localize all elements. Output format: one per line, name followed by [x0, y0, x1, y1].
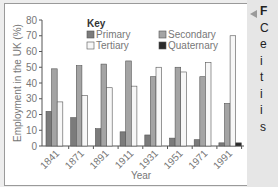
legend-label-primary: Primary	[96, 29, 130, 40]
bar-primary	[170, 138, 176, 146]
bar-primary	[95, 129, 101, 146]
side-text-line: s	[260, 120, 266, 134]
bar-tertiary	[181, 72, 187, 146]
y-tick-label: 60	[26, 46, 38, 57]
bar-chart: 01020304050607080Employment in the UK (%…	[5, 4, 247, 185]
legend-label-secondary: Secondary	[168, 29, 216, 40]
bar-primary	[71, 118, 77, 146]
bar-tertiary	[57, 102, 63, 146]
bar-tertiary	[131, 86, 137, 146]
bar-primary	[46, 111, 52, 146]
bar-primary	[145, 135, 151, 146]
legend-label-tertiary: Tertiary	[96, 40, 129, 51]
y-tick-label: 10	[26, 125, 38, 136]
bar-secondary	[76, 66, 82, 146]
x-tick-label: 1911	[113, 147, 136, 170]
legend-swatch-secondary	[159, 31, 166, 38]
y-tick-label: 30	[26, 93, 38, 104]
side-text-line: C	[260, 21, 269, 35]
side-text-line: e	[260, 37, 267, 51]
y-axis-label: Employment in the UK (%)	[12, 24, 23, 142]
legend-title: Key	[87, 18, 106, 29]
side-text-line: t	[260, 70, 263, 84]
bar-secondary	[52, 69, 58, 146]
x-tick-label: 1931	[137, 147, 161, 171]
bar-tertiary	[230, 36, 236, 146]
x-tick-label: 1991	[211, 147, 235, 171]
pointer-arrow-icon	[250, 10, 257, 18]
bar-secondary	[200, 77, 206, 146]
legend-swatch-tertiary	[87, 42, 94, 49]
y-tick-label: 70	[26, 30, 38, 41]
bar-secondary	[126, 61, 132, 146]
x-tick-label: 1871	[63, 147, 87, 171]
side-heading: F	[260, 4, 267, 18]
x-tick-label: 1891	[87, 147, 111, 171]
side-text-line: i	[260, 103, 263, 117]
legend-label-quaternary: Quaternary	[168, 40, 218, 51]
bar-tertiary	[156, 67, 162, 146]
bar-tertiary	[205, 63, 211, 146]
bar-quaternary	[236, 143, 242, 146]
bar-primary	[120, 132, 126, 146]
y-tick-label: 40	[26, 78, 38, 89]
bar-secondary	[150, 77, 156, 146]
y-tick-label: 20	[26, 109, 38, 120]
x-axis-label: Year	[131, 170, 152, 181]
side-panel: F C e i t i i s	[247, 0, 278, 187]
chart-frame: 01020304050607080Employment in the UK (%…	[4, 3, 248, 186]
legend-swatch-quaternary	[159, 42, 166, 49]
x-tick-label: 1841	[38, 147, 62, 171]
bar-secondary	[101, 64, 107, 146]
bar-secondary	[225, 103, 231, 146]
x-tick-label: 1971	[186, 147, 210, 171]
bar-primary	[219, 143, 225, 146]
bar-primary	[194, 140, 200, 146]
bar-tertiary	[107, 88, 113, 146]
bar-tertiary	[82, 96, 88, 146]
bar-secondary	[175, 67, 181, 146]
y-tick-label: 0	[31, 141, 37, 152]
y-tick-label: 50	[26, 62, 38, 73]
legend-swatch-primary	[87, 31, 94, 38]
side-text-line: i	[260, 87, 263, 101]
side-text: F C e i t i i s	[260, 3, 269, 135]
y-tick-label: 80	[26, 15, 38, 26]
x-tick-label: 1951	[161, 147, 185, 171]
side-text-line: i	[260, 54, 263, 68]
